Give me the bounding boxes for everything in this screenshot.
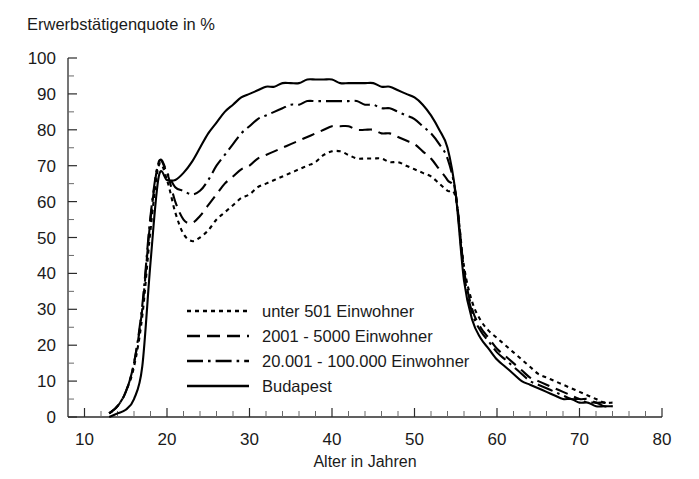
x-tick-label: 60	[488, 430, 507, 449]
legend-label-4: Budapest	[262, 377, 332, 395]
series-line-2	[109, 126, 612, 413]
legend-label-2: 2001 - 5000 Einwohner	[262, 327, 433, 345]
y-tick-label: 70	[37, 157, 56, 176]
x-tick-label: 50	[405, 430, 424, 449]
chart-container: Erwerbstätigenquote in % 010203040506070…	[0, 0, 699, 479]
y-tick-label: 60	[37, 193, 56, 212]
y-tick-label: 50	[37, 229, 56, 248]
series-line-1	[109, 151, 612, 414]
y-tick-label: 0	[47, 408, 56, 427]
x-tick-label: 30	[240, 430, 259, 449]
chart-title: Erwerbstätigenquote in %	[27, 15, 215, 33]
legend-label-3: 20.001 - 100.000 Einwohner	[262, 352, 470, 370]
x-axis-ticks	[85, 408, 663, 417]
x-axis: 1020304050607080 Alter in Jahren	[68, 408, 671, 470]
y-tick-label: 100	[28, 49, 56, 68]
y-tick-label: 40	[37, 264, 56, 283]
y-tick-label: 80	[37, 121, 56, 140]
y-axis-ticks	[68, 58, 77, 417]
x-tick-label: 70	[570, 430, 589, 449]
x-tick-label: 20	[158, 430, 177, 449]
y-tick-label: 30	[37, 300, 56, 319]
y-tick-label: 10	[37, 372, 56, 391]
line-chart: Erwerbstätigenquote in % 010203040506070…	[0, 0, 699, 479]
y-axis-tick-labels: 0102030405060708090100	[28, 49, 56, 427]
x-tick-label: 10	[75, 430, 94, 449]
y-tick-label: 20	[37, 336, 56, 355]
y-tick-label: 90	[37, 85, 56, 104]
x-tick-label: 80	[653, 430, 672, 449]
y-axis: 0102030405060708090100	[28, 49, 77, 427]
x-axis-title: Alter in Jahren	[313, 453, 416, 470]
legend-label-1: unter 501 Einwohner	[262, 302, 415, 320]
chart-legend: unter 501 Einwohner2001 - 5000 Einwohner…	[187, 302, 470, 395]
x-tick-label: 40	[323, 430, 342, 449]
x-axis-tick-labels: 1020304050607080	[75, 430, 671, 449]
